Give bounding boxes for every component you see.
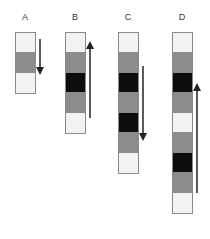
cell-gray: [66, 93, 85, 113]
cell-black: [173, 153, 192, 173]
arrow-down-icon: [138, 65, 148, 142]
arrow-down-icon: [35, 38, 45, 76]
cell-black: [119, 113, 138, 133]
label-c: C: [118, 12, 138, 22]
cell-light: [16, 73, 35, 93]
cell-gray: [173, 93, 192, 113]
column-c: [118, 32, 139, 174]
arrow-up-icon: [85, 41, 95, 119]
cell-gray: [173, 173, 192, 193]
cell-gray: [173, 133, 192, 153]
cell-black: [66, 73, 85, 93]
cell-gray: [119, 133, 138, 153]
cell-light: [173, 193, 192, 213]
column-d: [172, 32, 193, 214]
cell-gray: [66, 53, 85, 73]
cell-gray: [119, 53, 138, 73]
cell-light: [119, 153, 138, 173]
label-a: A: [15, 12, 35, 22]
cell-light: [66, 113, 85, 133]
label-d: D: [172, 12, 192, 22]
cell-light: [173, 33, 192, 53]
cell-black: [173, 73, 192, 93]
arrow-up-icon: [192, 83, 202, 194]
cell-light: [119, 33, 138, 53]
column-a: [15, 32, 36, 94]
cell-gray: [173, 53, 192, 73]
cell-black: [119, 73, 138, 93]
cell-gray: [16, 53, 35, 73]
cell-light: [16, 33, 35, 53]
label-b: B: [65, 12, 85, 22]
cell-gray: [119, 93, 138, 113]
cell-light: [66, 33, 85, 53]
cell-light: [173, 113, 192, 133]
column-b: [65, 32, 86, 134]
